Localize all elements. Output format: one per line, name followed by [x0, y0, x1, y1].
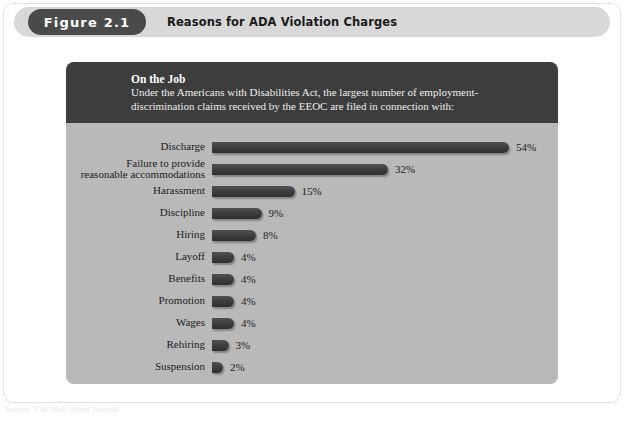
- bar-track: 2%: [212, 356, 558, 378]
- bar: [212, 208, 262, 219]
- bar-track: 15%: [212, 180, 558, 202]
- bar-track: 4%: [212, 268, 558, 290]
- bar-category-label: Failure to provide reasonable accommodat…: [66, 158, 212, 181]
- chart-row: Wages4%: [66, 312, 558, 334]
- bar-value-label: 9%: [269, 207, 284, 219]
- bar: [212, 362, 223, 373]
- chart-row: Failure to provide reasonable accommodat…: [66, 158, 558, 180]
- chart-row: Promotion4%: [66, 290, 558, 312]
- bar: [212, 252, 234, 263]
- bar-track: 4%: [212, 290, 558, 312]
- bar: [212, 142, 509, 153]
- bar-value-label: 8%: [263, 229, 278, 241]
- bar-category-label: Promotion: [66, 295, 212, 307]
- figure-source-text: Source: The Wall Street Journal: [4, 404, 620, 415]
- chart-row: Benefits4%: [66, 268, 558, 290]
- figure-source-strip: Source: The Wall Street Journal: [4, 404, 620, 421]
- chart-row: Discipline9%: [66, 202, 558, 224]
- bar-value-label: 3%: [236, 339, 251, 351]
- bar-category-label: Benefits: [66, 273, 212, 285]
- bar-category-label: Suspension: [66, 361, 212, 373]
- bar: [212, 296, 234, 307]
- chart-row: Suspension2%: [66, 356, 558, 378]
- chart-row: Hiring8%: [66, 224, 558, 246]
- bar-value-label: 4%: [241, 273, 256, 285]
- bar: [212, 274, 234, 285]
- chart-row: Rehiring3%: [66, 334, 558, 356]
- bar-track: 54%: [212, 136, 558, 158]
- chart-panel: Discharge54%Failure to provide reasonabl…: [66, 123, 558, 384]
- bar-track: 4%: [212, 312, 558, 334]
- bar-category-label: Rehiring: [66, 339, 212, 351]
- bar-track: 9%: [212, 202, 558, 224]
- figure-page: Figure 2.1 Reasons for ADA Violation Cha…: [0, 0, 624, 423]
- bar-value-label: 2%: [230, 361, 245, 373]
- bar-category-label: Harassment: [66, 185, 212, 197]
- bar-track: 32%: [212, 158, 558, 180]
- figure-title: Reasons for ADA Violation Charges: [167, 15, 397, 29]
- intro-panel: On the Job Under the Americans with Disa…: [66, 62, 558, 123]
- bar-chart: Discharge54%Failure to provide reasonabl…: [66, 136, 558, 378]
- bar-value-label: 15%: [302, 185, 322, 197]
- bar: [212, 164, 388, 175]
- figure-number-label: Figure 2.1: [44, 15, 131, 30]
- figure-number-pill: Figure 2.1: [28, 9, 146, 35]
- bar-category-label: Hiring: [66, 229, 212, 241]
- bar: [212, 318, 234, 329]
- bar-value-label: 4%: [241, 317, 256, 329]
- bar-category-label: Wages: [66, 317, 212, 329]
- bar-value-label: 4%: [241, 295, 256, 307]
- bar: [212, 186, 295, 197]
- intro-heading: On the Job: [131, 72, 558, 86]
- intro-body: Under the Americans with Disabilities Ac…: [131, 86, 521, 113]
- bar: [212, 230, 256, 241]
- bar-value-label: 4%: [241, 251, 256, 263]
- chart-row: Harassment15%: [66, 180, 558, 202]
- bar-category-label: Discipline: [66, 207, 212, 219]
- chart-row: Discharge54%: [66, 136, 558, 158]
- bar-value-label: 32%: [395, 163, 415, 175]
- bar-track: 4%: [212, 246, 558, 268]
- bar-value-label: 54%: [516, 141, 536, 153]
- bar: [212, 340, 229, 351]
- bar-category-label: Layoff: [66, 251, 212, 263]
- chart-row: Layoff4%: [66, 246, 558, 268]
- bar-category-label: Discharge: [66, 141, 212, 153]
- bar-track: 3%: [212, 334, 558, 356]
- bar-track: 8%: [212, 224, 558, 246]
